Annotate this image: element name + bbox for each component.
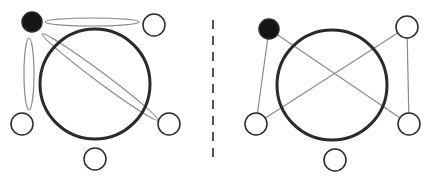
empty-node-icon [245,113,267,135]
empty-node-icon [11,113,33,135]
empty-node-icon [143,14,165,36]
empty-node-icon [396,16,418,38]
diagram-canvas [0,0,428,182]
empty-node-icon [398,113,420,135]
filled-node-icon [259,19,279,39]
empty-node-icon [158,113,180,135]
filled-node-icon [22,12,42,32]
empty-node-icon [84,148,106,170]
empty-node-icon [324,149,346,171]
